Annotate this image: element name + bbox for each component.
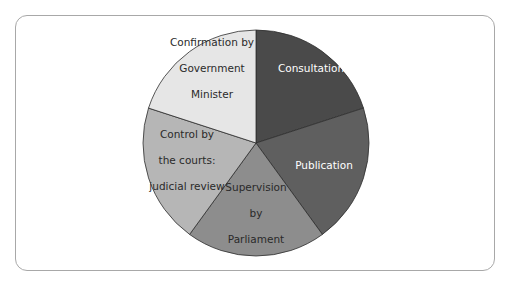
slice-label-supervision-by-parliament: Supervision by Parliament	[225, 168, 286, 259]
slice-label-control-by-courts: Control by the courts: judicial review	[149, 115, 224, 206]
slice-label-consultation: Consultation	[278, 49, 344, 88]
slice-label-publication: Publication	[295, 146, 353, 185]
slice-label-confirmation-by-minister: Confirmation by Government Minister	[170, 23, 254, 114]
